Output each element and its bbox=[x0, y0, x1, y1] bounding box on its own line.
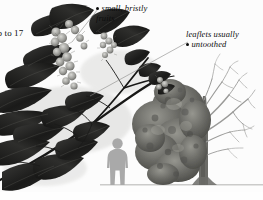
label-leaflets-untoothed: leaflets usually untoothed bbox=[186, 30, 239, 49]
label-untoothed-line2: untoothed bbox=[186, 40, 239, 50]
label-fruits-line2-text: fruits bbox=[96, 14, 147, 24]
label-leaflet-count: up to 17 bbox=[0, 29, 23, 39]
label-untoothed-line2-text: untoothed bbox=[192, 39, 227, 49]
bullet-point-icon bbox=[96, 7, 99, 10]
label-leaflet-count-text: up to 17 bbox=[0, 29, 23, 39]
label-small-bristly-fruits: small, bristly fruits bbox=[96, 4, 147, 23]
label-fruits-line1-text: small, bristly bbox=[102, 3, 148, 13]
illustration-plate: up to 17 small, bristly fruits leaflets … bbox=[0, 0, 263, 200]
bullet-point-icon bbox=[186, 43, 189, 46]
